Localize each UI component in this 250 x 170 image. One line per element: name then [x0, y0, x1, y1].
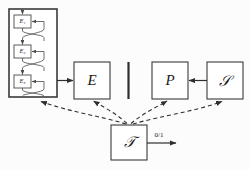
encoder-unit-label-1: E₁ — [18, 17, 25, 24]
edge-label-discriminator-output: 0/1 — [155, 131, 164, 139]
dashed-arrow-D-to-S — [133, 102, 222, 125]
encoder-unit-label-2: E₂ — [18, 47, 26, 54]
encoder-unit-label-3: E₃ — [18, 77, 25, 84]
diagram-canvas: E₁ E₂ E₃ E P 𝒮 𝒯 0/1 — [0, 0, 250, 170]
block-label-E: E — [86, 72, 96, 88]
encoder-stack-group — [9, 9, 57, 97]
block-label-P: P — [164, 72, 174, 88]
diagram-svg: E₁ E₂ E₃ E P 𝒮 𝒯 0/1 — [0, 0, 250, 170]
